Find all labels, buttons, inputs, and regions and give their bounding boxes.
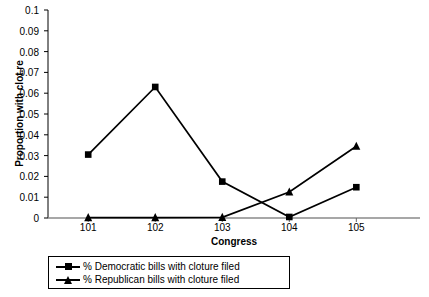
legend-label-republican: % Republican bills with cloture filed xyxy=(80,274,239,285)
legend-item-democratic: % Democratic bills with cloture filed xyxy=(49,260,289,273)
x-tick-label: 103 xyxy=(214,222,231,233)
line-chart-figure: Proportion with clot.re 00.010.020.030.0… xyxy=(0,0,429,297)
x-tick-label: 105 xyxy=(348,222,365,233)
legend-item-republican: % Republican bills with cloture filed xyxy=(49,273,289,286)
square-marker-icon xyxy=(56,261,80,273)
triangle-marker-icon xyxy=(56,274,80,286)
x-tick-label: 102 xyxy=(147,222,164,233)
x-axis-title: Congress xyxy=(48,236,420,247)
legend-label-democratic: % Democratic bills with cloture filed xyxy=(80,261,240,272)
x-tick-label: 104 xyxy=(281,222,298,233)
chart-legend: % Democratic bills with cloture filed % … xyxy=(48,256,290,289)
x-axis-tick-labels: 101102103104105 xyxy=(0,0,429,297)
x-tick-label: 101 xyxy=(80,222,97,233)
